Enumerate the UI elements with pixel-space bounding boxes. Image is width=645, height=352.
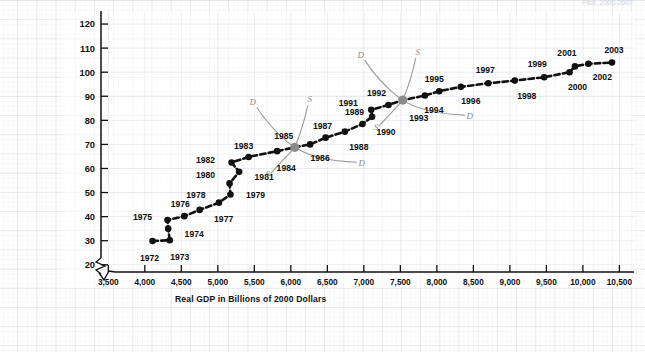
svg-text:8,000: 8,000	[426, 277, 447, 287]
scatter-plot: 2030405060708090100110120 3,5004,0004,50…	[0, 0, 645, 352]
figure-root: Pilot, 2006-2007 SOURCE: U.S. Department…	[0, 0, 645, 352]
svg-text:S: S	[416, 47, 421, 57]
data-point-2003	[609, 59, 616, 66]
data-point-1972	[149, 238, 156, 245]
data-point-1984	[274, 148, 281, 155]
svg-text:100: 100	[79, 68, 95, 78]
data-point-2000	[566, 69, 573, 76]
point-label-1994: 1994	[424, 105, 443, 115]
point-label-1988: 1988	[349, 142, 368, 152]
x-tick-labels: 3,5004,0004,5005,0005,5006,0006,5007,000…	[98, 265, 633, 287]
svg-text:S: S	[266, 169, 271, 179]
data-point-1994	[422, 92, 429, 99]
svg-text:7,500: 7,500	[390, 277, 411, 287]
data-point-1985	[290, 143, 299, 152]
point-label-1986: 1986	[311, 153, 330, 163]
svg-text:4,000: 4,000	[134, 277, 155, 287]
svg-text:110: 110	[80, 44, 95, 54]
point-label-1982: 1982	[196, 155, 215, 165]
svg-text:6,000: 6,000	[280, 277, 301, 287]
data-point-2001	[572, 63, 579, 70]
point-label-1989: 1989	[345, 107, 364, 117]
data-point-1983	[245, 154, 252, 161]
point-label-1980: 1980	[196, 170, 215, 180]
svg-text:D: D	[249, 97, 257, 107]
point-label-2001: 2001	[557, 48, 576, 58]
svg-text:80: 80	[85, 116, 95, 126]
data-point-1979	[227, 191, 234, 198]
data-point-1997	[485, 80, 492, 87]
point-label-1996: 1996	[461, 96, 480, 106]
data-point-1995	[436, 88, 443, 95]
data-point-1993	[398, 96, 407, 105]
svg-text:D: D	[358, 158, 366, 168]
point-label-1973: 1973	[170, 252, 189, 262]
y-tick-labels: 2030405060708090100110120	[79, 19, 108, 270]
data-point-1998	[511, 77, 518, 84]
point-label-1990: 1990	[377, 127, 396, 137]
data-point-1981	[236, 169, 243, 176]
data-point-1976	[181, 213, 188, 220]
point-label-1984: 1984	[277, 163, 296, 173]
svg-text:10,000: 10,000	[570, 277, 596, 287]
svg-text:20: 20	[85, 260, 95, 270]
svg-text:5,000: 5,000	[207, 277, 228, 287]
point-label-2000: 2000	[568, 82, 587, 92]
point-label-2002: 2002	[593, 72, 612, 82]
point-label-1983: 1983	[234, 141, 253, 151]
svg-text:4,500: 4,500	[171, 277, 192, 287]
point-label-1995: 1995	[425, 74, 444, 84]
point-label-1999: 1999	[528, 59, 547, 69]
point-label-1972: 1972	[140, 253, 159, 263]
svg-text:40: 40	[85, 212, 95, 222]
point-label-1997: 1997	[476, 65, 495, 75]
svg-text:S: S	[374, 122, 379, 132]
data-point-1990	[369, 113, 376, 120]
point-label-1975: 1975	[133, 212, 152, 222]
data-point-1975	[164, 217, 171, 224]
point-label-1998: 1998	[517, 91, 536, 101]
data-point-1989	[359, 121, 366, 128]
svg-text:120: 120	[79, 19, 95, 29]
point-label-1977: 1977	[214, 214, 233, 224]
svg-text:D: D	[466, 111, 474, 121]
point-label-1981: 1981	[255, 172, 274, 182]
svg-text:50: 50	[85, 188, 95, 198]
svg-text:3,500: 3,500	[98, 277, 119, 287]
data-point-1982	[228, 159, 235, 166]
svg-text:30: 30	[85, 236, 95, 246]
data-point-1978	[216, 199, 223, 206]
svg-text:6,500: 6,500	[317, 277, 338, 287]
point-label-1976: 1976	[171, 199, 190, 209]
point-label-1992: 1992	[367, 88, 386, 98]
point-label-2003: 2003	[604, 45, 623, 55]
data-point-1988	[342, 128, 349, 135]
svg-text:7,000: 7,000	[353, 277, 374, 287]
data-point-1991	[368, 106, 375, 113]
point-label-1985: 1985	[274, 131, 293, 141]
point-label-1979: 1979	[246, 190, 265, 200]
point-label-1991: 1991	[339, 98, 358, 108]
svg-text:8,500: 8,500	[463, 277, 484, 287]
data-point-1973	[166, 237, 173, 244]
data-point-1986	[307, 141, 314, 148]
point-label-1974: 1974	[185, 229, 204, 239]
svg-text:9,000: 9,000	[499, 277, 520, 287]
svg-text:90: 90	[85, 92, 95, 102]
data-point-1987	[322, 134, 329, 141]
data-point-1999	[541, 74, 548, 81]
data-point-1974	[165, 225, 172, 232]
svg-text:S: S	[308, 94, 313, 104]
data-point-1992	[385, 102, 392, 109]
data-point-2002	[585, 60, 592, 67]
point-label-1978: 1978	[186, 190, 205, 200]
point-label-1987: 1987	[313, 121, 332, 131]
svg-text:9,500: 9,500	[536, 277, 557, 287]
data-point-1996	[458, 84, 465, 91]
svg-text:5,500: 5,500	[244, 277, 265, 287]
data-point-1980	[226, 180, 233, 187]
svg-text:70: 70	[85, 140, 95, 150]
svg-text:D: D	[357, 50, 365, 60]
svg-text:10,500: 10,500	[607, 277, 633, 287]
data-point-1977	[196, 207, 203, 214]
